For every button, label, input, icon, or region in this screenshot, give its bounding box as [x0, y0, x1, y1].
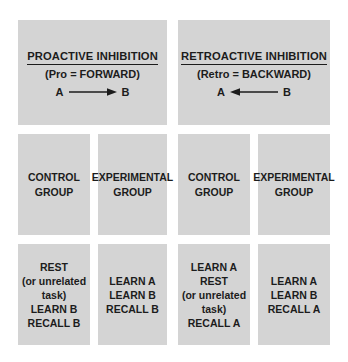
procedure-line: RECALL A: [268, 302, 321, 316]
procedure-line: RECALL B: [106, 302, 159, 316]
procedure-line: (or unrelated: [182, 288, 246, 302]
proactive-subtitle: (Pro = FORWARD): [45, 68, 140, 81]
proactive-title: PROACTIVE INHIBITION: [27, 50, 158, 65]
retroactive-arrow-right-label: B: [283, 86, 291, 98]
arrow-left-icon: [228, 87, 280, 97]
procedure-box-proactive-experimental: LEARN A LEARN B RECALL B: [98, 244, 167, 345]
procedure-line: REST: [200, 274, 228, 288]
group-box-retroactive-control: CONTROL GROUP: [178, 134, 250, 235]
group-box-retroactive-experimental: EXPERIMENTAL GROUP: [258, 134, 330, 235]
procedure-line: LEARN A: [191, 260, 237, 274]
procedure-line: REST: [40, 260, 68, 274]
procedure-box-retroactive-control: LEARN A REST (or unrelated task) RECALL …: [178, 244, 250, 345]
retroactive-arrow-row: A B: [217, 86, 291, 98]
proactive-inhibition-header: PROACTIVE INHIBITION (Pro = FORWARD) A B: [18, 20, 167, 125]
procedure-box-proactive-control: REST (or unrelated task) LEARN B RECALL …: [18, 244, 90, 345]
procedure-line: LEARN B: [31, 302, 78, 316]
procedure-line: LEARN B: [109, 288, 156, 302]
group-label-line2: GROUP: [35, 185, 74, 200]
procedure-line: LEARN A: [109, 274, 155, 288]
group-label-line2: GROUP: [195, 185, 234, 200]
retroactive-title: RETROACTIVE INHIBITION: [181, 50, 327, 65]
proactive-arrow-left-label: A: [56, 86, 64, 98]
procedure-line: LEARN B: [271, 288, 318, 302]
group-label-line2: GROUP: [113, 185, 152, 200]
procedure-box-retroactive-experimental: LEARN A LEARN B RECALL A: [258, 244, 330, 345]
retroactive-arrow-left-label: A: [217, 86, 225, 98]
group-label-line1: CONTROL: [188, 170, 240, 185]
procedure-line: (or unrelated: [22, 274, 86, 288]
retroactive-subtitle: (Retro = BACKWARD): [197, 68, 311, 81]
inhibition-diagram: PROACTIVE INHIBITION (Pro = FORWARD) A B…: [0, 0, 348, 362]
procedure-line: LEARN A: [271, 274, 317, 288]
proactive-arrow-row: A B: [56, 86, 130, 98]
arrow-right-icon: [67, 87, 119, 97]
group-label-line1: EXPERIMENTAL: [92, 170, 173, 185]
group-label-line2: GROUP: [275, 185, 314, 200]
procedure-line: task): [202, 302, 227, 316]
procedure-line: RECALL B: [28, 316, 81, 330]
retroactive-inhibition-header: RETROACTIVE INHIBITION (Retro = BACKWARD…: [178, 20, 330, 125]
procedure-line: task): [42, 288, 67, 302]
group-box-proactive-experimental: EXPERIMENTAL GROUP: [98, 134, 167, 235]
proactive-arrow-right-label: B: [122, 86, 130, 98]
group-label-line1: EXPERIMENTAL: [253, 170, 334, 185]
group-box-proactive-control: CONTROL GROUP: [18, 134, 90, 235]
procedure-line: RECALL A: [188, 316, 241, 330]
group-label-line1: CONTROL: [28, 170, 80, 185]
